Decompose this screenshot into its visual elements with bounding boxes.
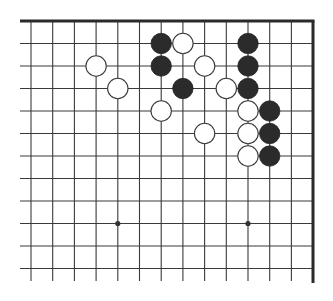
star-point [245,221,250,226]
white-stone [108,78,128,98]
white-stone [238,123,258,143]
black-stone [260,146,280,166]
white-stone [151,101,171,121]
go-board [0,0,333,301]
white-stone [238,101,258,121]
white-stone [194,56,214,76]
black-stone [238,78,258,98]
black-stone [238,33,258,53]
black-stone [260,101,280,121]
black-stone [238,56,258,76]
star-point [115,221,120,226]
white-stone [194,123,214,143]
white-stone [86,56,106,76]
black-stone [260,123,280,143]
white-stone [173,33,193,53]
black-stone [151,33,171,53]
white-stone [216,78,236,98]
black-stone [151,56,171,76]
white-stone [238,146,258,166]
black-stone [173,78,193,98]
